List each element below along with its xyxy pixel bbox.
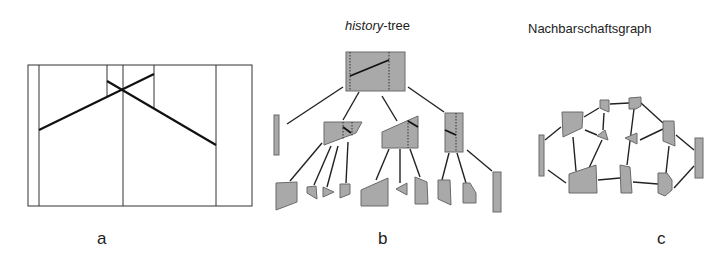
root-node bbox=[346, 52, 405, 91]
leaf bbox=[415, 177, 428, 204]
panel-a-trapezoidal-map bbox=[28, 65, 252, 206]
graph-node-bar-right bbox=[695, 138, 703, 178]
node-mid bbox=[382, 116, 418, 148]
leaf bbox=[463, 183, 476, 203]
graph-node-bar-left bbox=[539, 135, 544, 176]
diagram-canvas bbox=[0, 0, 725, 266]
leaf bbox=[396, 183, 407, 195]
graph-node bbox=[562, 112, 583, 137]
segment-1 bbox=[39, 74, 154, 130]
leaf bbox=[340, 184, 350, 198]
node-right bbox=[445, 113, 463, 152]
graph-node bbox=[658, 173, 672, 196]
graph-node bbox=[663, 121, 675, 146]
leaf-bar bbox=[493, 172, 501, 212]
bounding-box bbox=[28, 65, 252, 206]
leaf bbox=[323, 187, 334, 197]
graph-node bbox=[600, 100, 609, 112]
node-bar-left bbox=[274, 115, 279, 155]
panel-b-history-tree bbox=[274, 52, 501, 212]
leaf bbox=[361, 178, 388, 206]
graph-node bbox=[569, 165, 597, 193]
leaf bbox=[438, 180, 451, 205]
panel-c-neighborhood-graph bbox=[539, 97, 703, 196]
graph-node bbox=[629, 97, 641, 109]
tree-nodes bbox=[274, 52, 501, 212]
graph-node bbox=[597, 130, 608, 140]
graph-node bbox=[620, 165, 632, 193]
leaf bbox=[307, 186, 317, 199]
leaf bbox=[276, 182, 297, 210]
